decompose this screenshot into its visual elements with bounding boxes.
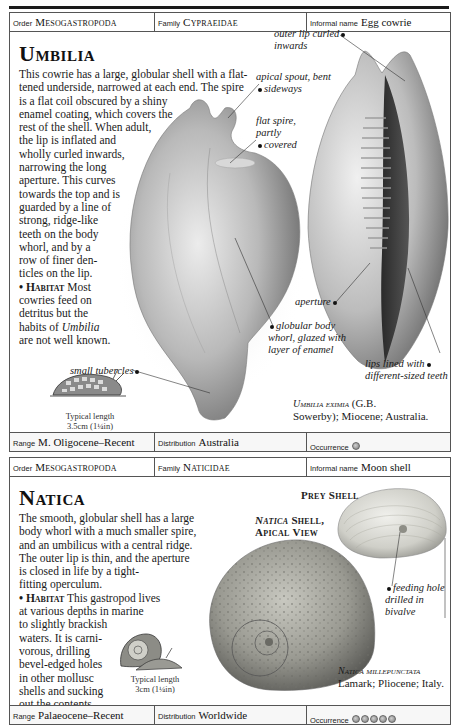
- typical-length-label: Typical length: [60, 411, 120, 421]
- description-line: and an umbilicus with a central ridge.: [19, 539, 259, 552]
- pointer-dot: [258, 144, 262, 148]
- callout-outer-lip: outer lip curled inwards: [274, 28, 347, 52]
- description-line: row of finer den-: [19, 254, 259, 267]
- family-cell: Family Naticidae: [155, 458, 307, 476]
- species-age-locality: Sowerby); Miocene; Australia.: [293, 410, 428, 423]
- range-label: Range: [13, 712, 35, 721]
- description-line: fitting operculum.: [19, 578, 259, 591]
- distribution-cell: Distribution Australia: [155, 433, 307, 451]
- typical-length-value: 3.5cm (1¼in): [60, 421, 120, 431]
- pointer-dot: [387, 587, 391, 591]
- callout-text: outer lip curled: [274, 28, 339, 39]
- callout-text: covered: [264, 139, 297, 150]
- informal-name-label: Informal name: [310, 19, 358, 28]
- distribution-value: Australia: [199, 436, 239, 448]
- occurrence-cell: Occurrence: [307, 706, 450, 724]
- callout-text: different-sized teeth: [365, 370, 448, 382]
- description-line: wholly curled inwards,: [19, 148, 259, 161]
- habitat-text-part: habits of: [19, 321, 59, 333]
- description-line: tened underside, narrowed at each end. T…: [19, 81, 259, 94]
- callout-text: lips lined with: [365, 358, 425, 369]
- range-footer: Range M. Oligocene–Recent Distribution A…: [10, 432, 450, 451]
- typical-length-caption: Typical length 3.5cm (1¼in): [60, 411, 120, 431]
- species-caption: Umbilia eximia (G.B. Sowerby); Miocene; …: [293, 397, 428, 423]
- description-line: The outer lip is thin, and the aperture: [19, 552, 259, 565]
- occurrence-dot-icon: [361, 715, 369, 723]
- order-cell: Order Mesogastropoda: [10, 458, 155, 476]
- order-value: Mesogastropoda: [35, 16, 116, 28]
- species-age-locality: Lamark; Pliocene; Italy.: [338, 677, 444, 690]
- callout-text: partly: [256, 127, 297, 139]
- order-label: Order: [13, 19, 32, 28]
- habitat-label: • Habitat: [19, 592, 64, 604]
- callout-text: inwards: [274, 40, 347, 52]
- habitat-label: • Habitat: [19, 281, 64, 293]
- occurrence-rating: [352, 436, 361, 451]
- family-label: Family: [158, 464, 180, 473]
- pointer-dot: [270, 325, 274, 329]
- callout-flat-spire: flat spire, partly covered: [256, 115, 297, 151]
- description-line: the lip is inflated and: [19, 134, 259, 147]
- typical-length-value: 3cm (1¼in): [125, 684, 185, 694]
- species-name: Natica millepunctata: [338, 664, 444, 677]
- callout-aperture: aperture: [295, 296, 339, 308]
- typical-length-caption: Typical length 3cm (1¼in): [125, 674, 185, 694]
- genus-title: Umbilia: [19, 41, 95, 67]
- distribution-label: Distribution: [158, 439, 196, 448]
- description-line: narrowing the long: [19, 161, 259, 174]
- pointer-dot: [135, 370, 139, 374]
- informal-name-label: Informal name: [310, 464, 358, 473]
- informal-name-cell: Informal name Moon shell: [307, 458, 450, 476]
- order-cell: Order Mesogastropoda: [10, 13, 155, 31]
- description-line: whorl, and by a: [19, 241, 259, 254]
- description-line: towards the top and is: [19, 188, 259, 201]
- range-value: Palaeocene–Recent: [38, 709, 124, 721]
- pointer-dot: [427, 363, 431, 367]
- occurrence-dot-icon: [370, 715, 378, 723]
- callout-text: sideways: [264, 83, 302, 94]
- typical-length-label: Typical length: [125, 674, 185, 684]
- description-line: The smooth, globular shell has a large: [19, 512, 259, 525]
- callout-text: globular body: [276, 320, 335, 331]
- description-line: enamel coating, which covers the: [19, 108, 259, 121]
- callout-lips-lined: lips lined with different-sized teeth: [365, 358, 448, 382]
- description-line: This cowrie has a large, globular shell …: [19, 68, 259, 81]
- description-line: guarded by a line of: [19, 201, 259, 214]
- description-line: is a flat coil obscured by a shiny: [19, 95, 259, 108]
- description-line: ticles on the lip.: [19, 267, 259, 280]
- pointer-dot: [341, 33, 345, 37]
- pointer-dot: [333, 301, 337, 305]
- habitat-text: cowries feed on: [19, 294, 259, 307]
- callout-apical-spout: apical spout, bent sideways: [256, 71, 331, 95]
- description-line: is closed in life by a tight-: [19, 565, 259, 578]
- classification-header: Order Mesogastropoda Family Naticidae In…: [10, 458, 450, 477]
- habitat-text: habits of Umbilia: [19, 321, 259, 334]
- description-line: aperture. This curves: [19, 174, 259, 187]
- natica-shell-name: Natica: [255, 514, 288, 526]
- genus-italic: Umbilia: [62, 321, 100, 333]
- natica-shell-view-label: Natica Shell, Apical View: [255, 514, 324, 538]
- callout-feeding-hole: feeding hole drilled in bivalve: [385, 582, 445, 618]
- family-label: Family: [158, 19, 180, 28]
- cowrie-animal-illustration: [48, 365, 128, 405]
- family-value: Naticidae: [183, 461, 230, 473]
- distribution-value: Worldwide: [199, 709, 248, 721]
- range-value: M. Oligocene–Recent: [38, 436, 135, 448]
- habitat-line: • Habitat Most: [19, 281, 259, 294]
- distribution-label: Distribution: [158, 712, 196, 721]
- species-name: Umbilia eximia: [293, 398, 349, 409]
- family-value: Cypraeidae: [183, 16, 238, 28]
- range-label: Range: [13, 439, 35, 448]
- occurrence-label: Occurrence: [310, 716, 349, 724]
- species-caption: Natica millepunctata Lamark; Pliocene; I…: [338, 664, 444, 690]
- genus-title: Natica: [19, 485, 85, 511]
- distribution-cell: Distribution Worldwide: [155, 706, 307, 724]
- classification-header: Order Mesogastropoda Family Cypraeidae I…: [10, 13, 450, 32]
- prey-shell-label: Prey Shell: [301, 489, 359, 501]
- callout-text: drilled in: [385, 594, 445, 606]
- informal-name-value: Moon shell: [361, 461, 411, 473]
- description: This cowrie has a large, globular shell …: [19, 68, 259, 347]
- habitat-text: at various depths in marine: [19, 605, 259, 618]
- description-line: body whorl with a much smaller spire,: [19, 525, 259, 538]
- pointer-dot: [258, 88, 262, 92]
